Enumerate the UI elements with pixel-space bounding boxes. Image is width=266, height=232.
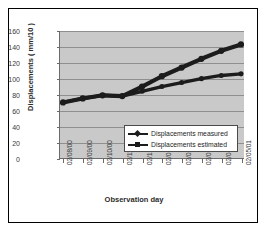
y-tick-label: 80 <box>0 92 20 99</box>
y-tick-label: 100 <box>0 76 20 83</box>
y-tick-mark <box>57 47 60 48</box>
x-tick-mark <box>202 159 203 163</box>
x-tick-label: 02/05/01 <box>245 140 252 165</box>
square-marker-icon <box>128 140 148 149</box>
gridline <box>60 111 244 112</box>
x-tick-mark <box>103 159 104 163</box>
gridline <box>60 79 244 80</box>
gridline <box>60 47 244 48</box>
y-tick-mark <box>57 143 60 144</box>
legend-label-estimated: Displacements estimated <box>148 141 227 148</box>
y-tick-label: 60 <box>0 108 20 115</box>
y-tick-label: 20 <box>0 140 20 147</box>
gridline <box>60 31 244 32</box>
chart-legend: Displacements measured Displacements est… <box>124 125 238 152</box>
legend-item-estimated: Displacements estimated <box>128 139 234 150</box>
y-axis-title: Displacements ( mm/10 ) <box>25 12 37 122</box>
x-tick-mark <box>143 159 144 163</box>
x-tick-label: 02/10/00 <box>106 140 113 165</box>
y-tick-mark <box>57 95 60 96</box>
x-tick-label: 02/08/00 <box>66 140 73 165</box>
y-tick-mark <box>57 111 60 112</box>
y-tick-label: 140 <box>0 44 20 51</box>
y-tick-mark <box>57 159 60 160</box>
diamond-marker-icon <box>128 129 148 138</box>
x-tick-mark <box>63 159 64 163</box>
y-tick-label: 40 <box>0 124 20 131</box>
x-tick-mark <box>162 159 163 163</box>
gridline <box>60 63 244 64</box>
x-tick-label: 02/09/00 <box>86 140 93 165</box>
x-axis-title: Observation day <box>9 195 259 204</box>
y-tick-label: 120 <box>0 60 20 67</box>
legend-item-measured: Displacements measured <box>128 128 234 139</box>
y-tick-mark <box>57 63 60 64</box>
plot-area: 02/08/0002/09/0002/10/0002/11/0002/12/00… <box>59 31 244 159</box>
y-tick-label: 0 <box>0 156 20 163</box>
x-tick-mark <box>242 159 243 163</box>
x-tick-mark <box>182 159 183 163</box>
y-tick-label: 160 <box>0 28 20 35</box>
chart-figure: Displacements ( mm/10 ) Observation day … <box>8 8 258 223</box>
y-tick-mark <box>57 31 60 32</box>
gridline <box>60 95 244 96</box>
x-tick-mark <box>83 159 84 163</box>
y-tick-mark <box>57 79 60 80</box>
x-tick-mark <box>222 159 223 163</box>
legend-label-measured: Displacements measured <box>148 130 228 137</box>
y-tick-mark <box>57 127 60 128</box>
x-tick-mark <box>123 159 124 163</box>
